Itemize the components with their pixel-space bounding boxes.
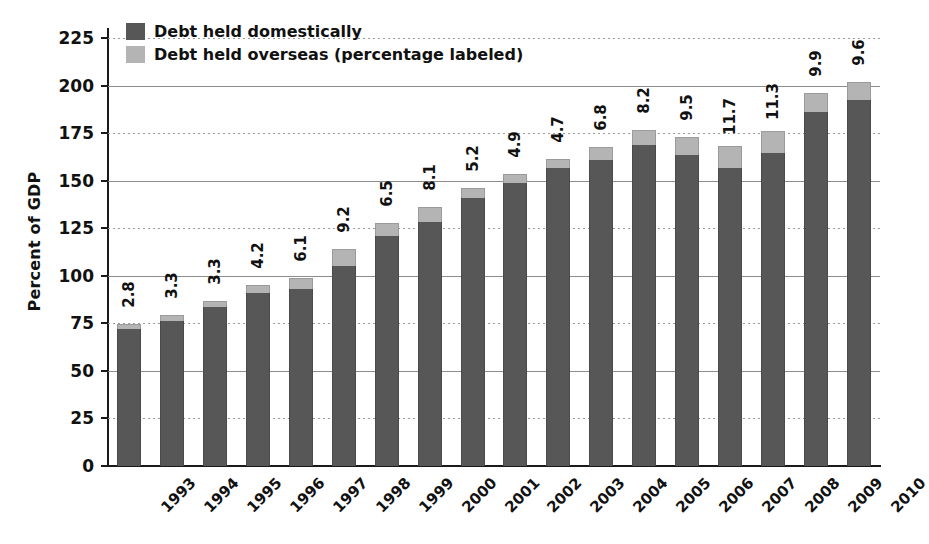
bar-value-label: 9.2 xyxy=(337,206,352,233)
bar-group[interactable] xyxy=(375,223,399,466)
y-tick-mark xyxy=(101,322,108,324)
bar-segment-domestic[interactable] xyxy=(675,155,699,466)
bar-segment-domestic[interactable] xyxy=(503,183,527,466)
y-tick-mark xyxy=(101,417,108,419)
bar-segment-overseas[interactable] xyxy=(375,223,399,235)
bar-group[interactable] xyxy=(461,188,485,466)
bar-value-label: 4.7 xyxy=(551,116,566,143)
bar-group[interactable] xyxy=(332,249,356,466)
bar-segment-overseas[interactable] xyxy=(675,137,699,155)
bar-value-label: 4.9 xyxy=(508,131,523,158)
y-tick-label: 75 xyxy=(46,313,94,333)
bar-value-label: 3.3 xyxy=(208,258,223,285)
bar-group[interactable] xyxy=(675,137,699,466)
bar-group[interactable] xyxy=(761,131,785,466)
y-tick-mark xyxy=(101,465,108,467)
y-tick-label: 175 xyxy=(46,123,94,143)
bar-value-label: 11.7 xyxy=(723,98,738,135)
bar-segment-overseas[interactable] xyxy=(246,285,270,293)
bar-segment-domestic[interactable] xyxy=(847,100,871,466)
x-tick-label: 2007 xyxy=(758,474,800,516)
dark-gray-swatch-icon xyxy=(126,23,145,40)
y-tick-mark xyxy=(101,370,108,372)
bar-segment-overseas[interactable] xyxy=(289,278,313,290)
y-tick-label: 125 xyxy=(46,218,94,238)
bar-group[interactable] xyxy=(246,285,270,466)
y-tick-label: 200 xyxy=(46,76,94,96)
x-tick-label: 1995 xyxy=(243,474,285,516)
bar-segment-domestic[interactable] xyxy=(632,145,656,466)
bar-segment-overseas[interactable] xyxy=(804,93,828,112)
bar-segment-overseas[interactable] xyxy=(589,147,613,160)
x-tick-label: 1997 xyxy=(329,474,371,516)
bar-segment-overseas[interactable] xyxy=(461,188,485,198)
x-tick-label: 2005 xyxy=(672,474,714,516)
bar-value-label: 6.5 xyxy=(380,181,395,208)
x-tick-label: 1993 xyxy=(158,474,200,516)
bar-value-label: 6.8 xyxy=(594,104,609,131)
y-tick-mark xyxy=(101,180,108,182)
bar-segment-domestic[interactable] xyxy=(289,289,313,466)
bar-value-label: 8.2 xyxy=(637,87,652,114)
x-tick-label: 2001 xyxy=(501,474,543,516)
bar-segment-domestic[interactable] xyxy=(761,153,785,466)
bar-segment-domestic[interactable] xyxy=(718,168,742,466)
x-tick-label: 1994 xyxy=(201,474,243,516)
bar-segment-domestic[interactable] xyxy=(246,293,270,466)
bar-segment-overseas[interactable] xyxy=(332,249,356,267)
x-tick-label: 2000 xyxy=(458,474,500,516)
bar-value-label: 6.1 xyxy=(294,235,309,262)
x-tick-label: 2002 xyxy=(544,474,586,516)
bar-group[interactable] xyxy=(847,82,871,466)
x-tick-label: 1996 xyxy=(286,474,328,516)
x-tick-label: 2008 xyxy=(801,474,843,516)
bar-segment-overseas[interactable] xyxy=(761,131,785,152)
y-axis-ticks: 2252001751501251007550250 xyxy=(108,38,208,466)
bar-segment-domestic[interactable] xyxy=(589,160,613,466)
chart-legend: Debt held domestically Debt held oversea… xyxy=(126,22,523,64)
legend-item-overseas: Debt held overseas (percentage labeled) xyxy=(126,45,523,64)
y-tick-label: 0 xyxy=(46,456,94,476)
bar-value-label: 8.1 xyxy=(423,164,438,191)
light-gray-swatch-icon xyxy=(126,46,145,63)
bar-segment-overseas[interactable] xyxy=(847,82,871,100)
bar-group[interactable] xyxy=(589,147,613,466)
bar-group[interactable] xyxy=(418,207,442,466)
bar-series: 2.83.33.34.26.19.26.58.15.24.94.76.88.29… xyxy=(108,38,880,466)
bar-group[interactable] xyxy=(289,278,313,466)
y-tick-mark xyxy=(101,132,108,134)
bar-value-label: 9.9 xyxy=(809,50,824,77)
bar-group[interactable] xyxy=(804,93,828,466)
bar-segment-domestic[interactable] xyxy=(418,222,442,466)
y-tick-label: 100 xyxy=(46,266,94,286)
plot-area: 2.83.33.34.26.19.26.58.15.24.94.76.88.29… xyxy=(108,38,880,466)
bar-group[interactable] xyxy=(632,130,656,466)
bar-segment-domestic[interactable] xyxy=(375,236,399,466)
x-tick-label: 1999 xyxy=(415,474,457,516)
bar-segment-overseas[interactable] xyxy=(503,174,527,183)
bar-segment-overseas[interactable] xyxy=(718,146,742,168)
bar-segment-overseas[interactable] xyxy=(546,159,570,168)
bar-value-label: 5.2 xyxy=(466,145,481,172)
y-tick-label: 150 xyxy=(46,171,94,191)
bar-group[interactable] xyxy=(546,159,570,466)
bar-segment-domestic[interactable] xyxy=(461,198,485,466)
bar-value-label: 4.2 xyxy=(251,242,266,269)
y-tick-label: 50 xyxy=(46,361,94,381)
bar-segment-overseas[interactable] xyxy=(418,207,442,222)
x-tick-label: 2010 xyxy=(887,474,929,516)
bar-value-label: 9.6 xyxy=(852,39,867,66)
bar-segment-overseas[interactable] xyxy=(632,130,656,146)
x-tick-label: 2003 xyxy=(587,474,629,516)
bar-segment-domestic[interactable] xyxy=(546,168,570,466)
bar-group[interactable] xyxy=(718,146,742,466)
y-tick-mark xyxy=(101,275,108,277)
x-tick-label: 1998 xyxy=(372,474,414,516)
bar-group[interactable] xyxy=(503,174,527,466)
bar-segment-domestic[interactable] xyxy=(332,266,356,466)
x-tick-label: 2009 xyxy=(844,474,886,516)
bar-segment-domestic[interactable] xyxy=(804,112,828,466)
bar-value-label: 9.5 xyxy=(680,94,695,121)
x-axis-labels: 1993199419951996199719981999200020012002… xyxy=(108,470,880,544)
